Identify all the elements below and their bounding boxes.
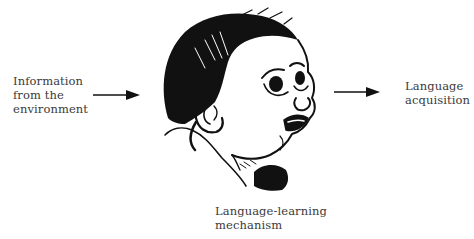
diagram-canvas — [0, 0, 474, 239]
baby-head-illustration — [164, 8, 315, 191]
arrow-right-icon — [334, 87, 380, 97]
arrow-right-icon — [93, 90, 140, 100]
